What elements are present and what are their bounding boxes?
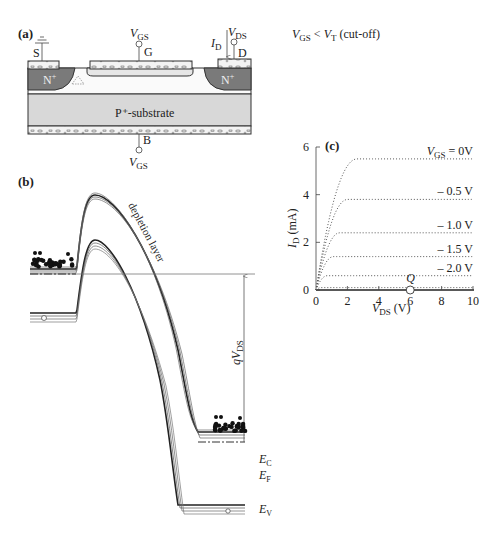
x-tick-label: 0 [313,294,319,308]
electron [35,263,39,267]
body-contact-metal [28,126,251,134]
electrons-source [31,251,75,269]
y-tick-label: 2 [303,235,309,249]
electron [238,416,242,420]
substrate-label: P⁺-substrate [115,106,174,120]
x-tick-label: 8 [439,294,445,308]
electron [38,251,42,255]
panel-b-band-diagram: (b) qVDS depletion layer E [18,174,272,518]
electron [236,425,240,429]
figure: (a) P⁺-substrate N+ N+ S G VGS [0,0,497,535]
body-voltage-label: VGS [129,155,148,171]
qvds-label: qVDS [229,340,245,365]
ev-label: EV [258,502,272,518]
ground-icon [35,37,49,43]
y-tick-label: 6 [303,140,309,154]
electron [31,262,35,266]
conduction-band [30,193,245,438]
electrons-drain [213,415,248,433]
curve-label: – 1.5 V [437,242,474,256]
electron [230,421,234,425]
electron [232,429,236,433]
electron [58,260,62,264]
electron [48,261,52,265]
x-tick-label: 2 [344,294,350,308]
x-tick-label: 10 [467,294,479,308]
drain-label: D [238,46,247,60]
y-axis-label: ID (mA) [285,209,301,250]
source-contact [28,61,59,69]
electron [32,257,36,261]
electron [214,415,218,419]
curve-label: – 0.5 V [437,184,474,198]
y-tick-label: 0 [303,283,309,297]
curve-label: – 1.0 V [437,218,474,232]
drain-current-label: ID [210,36,222,52]
chart-label: (c) [325,138,339,153]
gate-contact [90,61,192,69]
electron [229,425,233,429]
ec-label: EC [258,452,272,468]
panel-a-label: (a) [18,26,33,41]
y-tick-label: 4 [303,188,309,202]
body-terminal-icon [136,147,142,153]
drain-contact [218,59,251,68]
source-label: S [33,46,40,60]
electron [39,258,43,262]
electron [33,251,37,255]
gate-voltage-label: VGS [130,26,149,42]
depletion-layer-label: depletion layer [126,200,168,264]
electron [69,257,73,261]
panel-c-iv-chart: (c) 02468100246 VGS = 0V– 0.5 V– 1.0 V– … [285,138,479,317]
electron [218,428,222,432]
cutoff-condition: VGS < VT (cut-off) [292,27,380,43]
valence-band [30,240,245,514]
q-point-marker [406,286,414,294]
electron [219,415,223,419]
electron [70,262,74,266]
gate-label: G [144,45,153,59]
electron [213,425,217,429]
q-point-label: Q [406,271,415,285]
x-axis-label: VDS (V) [372,301,411,317]
body-label: B [143,133,151,147]
hole-drain [226,509,230,513]
panel-b-label: (b) [18,174,34,189]
curve-label: – 2.0 V [437,261,474,275]
electron [241,424,245,428]
curve-label: VGS = 0V [427,144,474,160]
ef-label: EF [258,468,271,484]
electron [66,252,70,256]
drain-voltage-label: VDS [228,25,247,41]
hole-source [42,316,47,321]
electron [239,429,243,433]
